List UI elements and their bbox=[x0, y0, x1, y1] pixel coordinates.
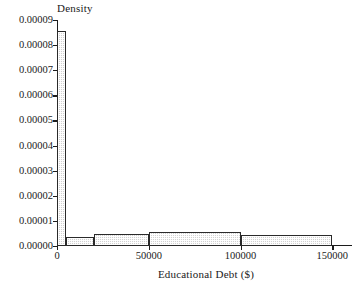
y-tick-label: 0.00008 bbox=[19, 40, 53, 51]
y-tick-label: 0.00009 bbox=[19, 15, 53, 26]
y-tick-label: 0.00002 bbox=[19, 191, 53, 202]
x-tick-label: 50000 bbox=[136, 251, 162, 262]
y-tick-label: 0.00006 bbox=[19, 90, 53, 101]
y-tick-label: 0.00003 bbox=[19, 165, 53, 176]
y-tick-label: 0.00001 bbox=[19, 216, 53, 227]
x-tick-label: 150000 bbox=[317, 251, 349, 262]
x-tick-label: 100000 bbox=[225, 251, 257, 262]
histogram-bar bbox=[57, 31, 66, 246]
histogram-bar bbox=[66, 237, 94, 246]
histogram-bar bbox=[94, 234, 149, 246]
x-axis-title: Educational Debt ($) bbox=[0, 268, 364, 280]
histogram-figure: Density 0.000000.000010.000020.000030.00… bbox=[0, 0, 364, 290]
y-tick-label: 0.00000 bbox=[19, 241, 53, 252]
y-tick-label: 0.00004 bbox=[19, 140, 53, 151]
histogram-bar bbox=[241, 235, 333, 246]
y-tick-label: 0.00005 bbox=[19, 115, 53, 126]
x-tick-label: 0 bbox=[54, 251, 59, 262]
histogram-bar bbox=[149, 232, 241, 246]
x-axis-title-text: Educational Debt ($) bbox=[110, 268, 254, 280]
y-tick-label: 0.00007 bbox=[19, 65, 53, 76]
histogram-bars bbox=[57, 20, 347, 246]
y-axis-title: Density bbox=[57, 2, 93, 14]
